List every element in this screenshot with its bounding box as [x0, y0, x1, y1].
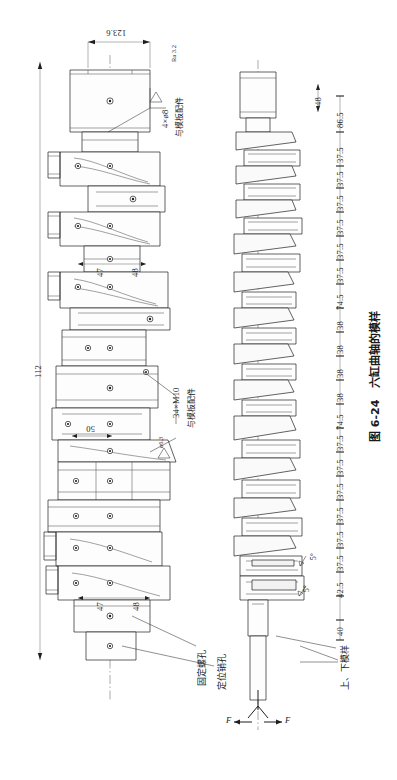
mid-pin-spec-label: ø6.3 [158, 437, 165, 448]
dim-right-20: 42.5 [336, 582, 345, 598]
dim-left-50: 50 [86, 424, 95, 433]
head-width-dimension [88, 40, 150, 68]
dim-right-6: 37.5 [336, 243, 345, 259]
dim-right-9: 38 [336, 321, 345, 330]
dim-left-47-lower: 47 [96, 602, 105, 611]
dim-right-17: 37.5 [336, 507, 345, 523]
dim-left-47-upper: 47 [96, 268, 105, 277]
top-hole-spec-label: 4×ø8 [161, 110, 170, 128]
dim-right-3: 37.5 [336, 171, 345, 187]
dim-right-8: 74.5 [336, 294, 345, 310]
dim-left-48-lower: 48 [132, 602, 141, 611]
top-hole-note-label: 与模板配件 [176, 97, 184, 137]
dim-right-13: 74.5 [336, 414, 345, 430]
dim-right-5: 37.5 [336, 219, 345, 235]
draft-angle-1: 5° [310, 553, 318, 560]
dim-head-width: 123.6 [106, 28, 126, 37]
dim-right-15: 37.5 [336, 459, 345, 475]
dim-right-2: 37.5 [336, 147, 345, 163]
figure-number: 图 6-24 [370, 400, 381, 442]
dim-right-18: 37.5 [336, 531, 345, 547]
dim-left-48-upper: 48 [131, 268, 140, 277]
section-mark-left-F: F [226, 716, 231, 725]
dim-total-length: 112 [34, 365, 43, 378]
dim-right-4: 37.5 [336, 195, 345, 211]
dim-right-16: 37.5 [336, 483, 345, 499]
drawing-sheet: 123.6 Ra 3.2 4×ø8 与模板配件 112 47 48 50 34×… [0, 0, 397, 780]
dim-right-7: 37.5 [336, 267, 345, 283]
overall-length-dimension [38, 62, 42, 660]
right-view-group [234, 60, 304, 730]
dim-right-12: 38 [336, 393, 345, 402]
dim-right-21: 40 [336, 627, 345, 636]
upper-lower-pattern-label: 上、下模样 [341, 645, 350, 690]
dim-right-10: 38 [336, 345, 345, 354]
mid-thread-spec-label: 34×M10 [172, 387, 181, 418]
dim-right-0: 48 [314, 97, 323, 106]
mid-thread-note-label: 与模板配件 [188, 388, 196, 428]
dim-right-19: 37.5 [336, 555, 345, 571]
dim-right-1: 86.5 [336, 112, 345, 128]
figure-caption: 六缸曲轴的模样 [370, 311, 381, 388]
surface-finish-label: Ra 3.2 [171, 45, 178, 62]
locating-pin-label: 定位销孔 [218, 654, 227, 690]
dim-right-11: 38 [336, 369, 345, 378]
section-mark-right-F: F [285, 716, 290, 725]
fixing-hole-label: 固定螺孔 [198, 650, 207, 686]
left-view-group [44, 55, 176, 700]
draft-angle-2: 5° [303, 585, 311, 592]
dim-right-14: 37.5 [336, 435, 345, 451]
